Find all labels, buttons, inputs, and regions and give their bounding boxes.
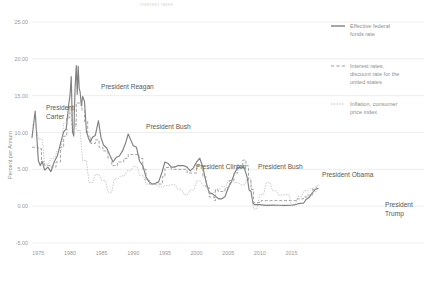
x-axis-tick-label: 1980 [64, 250, 76, 256]
x-axis-tick-label: 2015 [286, 250, 298, 256]
y-axis-tick-label: 20.00 [15, 56, 29, 62]
annotation-president-clinton: President Clinton [196, 163, 247, 170]
chart-legend: Effective federalfunds rateInterest rate… [331, 23, 399, 115]
x-axis-tick-label: 2005 [222, 250, 234, 256]
x-axis-tick-label: 1995 [159, 250, 171, 256]
x-axis-tick-labels: 197519801985199019952000200520102015 [32, 250, 297, 256]
data-series-group [32, 65, 318, 209]
y-axis-tick-label: -5.00 [16, 240, 28, 246]
annotation-president-obama: President Obama [322, 171, 374, 178]
y-axis-tick-label: 10.00 [15, 130, 29, 136]
x-axis-tick-label: 2010 [254, 250, 266, 256]
x-axis-tick-label: 2000 [191, 250, 203, 256]
legend-effective-federal-funds-rate-label: Effective federalfunds rate [350, 23, 390, 37]
annotation-president-reagan: President Reagan [101, 83, 154, 91]
chart-container: Interest rates 25.0020.0015.0010.005.000… [0, 0, 426, 293]
interest-rates-line-chart: 25.0020.0015.0010.005.000.00-5.00 197519… [0, 0, 426, 293]
annotation-president-trump: PresidentTrump [385, 201, 413, 218]
gridlines [32, 22, 424, 243]
legend-discount-rate-label: Interest rates,discount rate for theunit… [350, 63, 399, 85]
annotation-president-bush-41: President Bush [146, 123, 191, 130]
y-axis-tick-label: 0.00 [18, 203, 29, 209]
y-axis-tick-label: 15.00 [15, 93, 29, 99]
y-axis-tick-labels: 25.0020.0015.0010.005.000.00-5.00 [15, 19, 29, 246]
x-axis-tick-label: 1990 [127, 250, 139, 256]
annotation-president-bush-43: President Bush [258, 163, 303, 170]
x-axis-tick-label: 1985 [96, 250, 108, 256]
x-axis-tick-label: 1975 [32, 250, 44, 256]
y-axis-tick-label: 5.00 [18, 166, 29, 172]
legend-inflation-cpi-label: Inflation, consumerprice index [350, 101, 397, 115]
y-axis-title: Percent per Annum [7, 131, 13, 179]
y-axis-tick-label: 25.00 [15, 19, 29, 25]
